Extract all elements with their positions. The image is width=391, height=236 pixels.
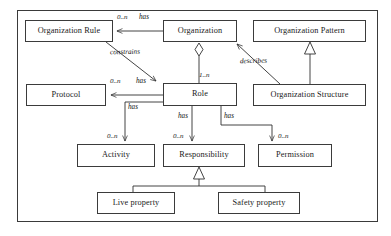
node-label: Activity xyxy=(102,151,130,159)
multiplicity-protocol: 0..n xyxy=(110,78,121,85)
edge-label-has-activity: has xyxy=(128,104,138,111)
node-permission[interactable]: Permission xyxy=(258,144,332,167)
edge-organization-structure-inherits-organization-pattern xyxy=(305,42,316,84)
node-label: Live property xyxy=(113,199,160,207)
multiplicity-organization-rule: 0..n xyxy=(117,14,128,21)
multiplicity-permission: 0..n xyxy=(278,133,289,140)
node-label: Organization xyxy=(178,27,222,35)
node-label: Responsibility xyxy=(179,151,228,159)
edge-label-has-protocol: has xyxy=(136,78,146,85)
node-live-property[interactable]: Live property xyxy=(97,192,175,214)
node-label: Organization Rule xyxy=(38,27,101,35)
generalization-triangle xyxy=(194,167,205,179)
edge-label-has-responsibility: has xyxy=(178,113,188,120)
aggregation-diamond xyxy=(195,43,203,56)
node-label: Permission xyxy=(276,151,314,159)
edge-properties-inherit-responsibility xyxy=(133,167,265,192)
node-label: Organization Pattern xyxy=(274,27,345,35)
generalization-triangle xyxy=(305,42,316,54)
node-safety-property[interactable]: Safety property xyxy=(218,192,300,214)
diagram-canvas: Organization Rule Organization Organizat… xyxy=(0,0,391,236)
node-organization-rule[interactable]: Organization Rule xyxy=(25,20,113,42)
node-role[interactable]: Role xyxy=(163,83,237,106)
multiplicity-responsibility: 0..n xyxy=(173,133,184,140)
multiplicity-activity: 0..n xyxy=(107,133,118,140)
edge-label-has-organization-rule: has xyxy=(139,14,149,21)
node-activity[interactable]: Activity xyxy=(77,144,155,167)
edge-label-constrains: constrains xyxy=(110,49,140,57)
node-organization[interactable]: Organization xyxy=(163,20,237,42)
edge-label-has-permission: has xyxy=(224,113,234,120)
multiplicity-role: 1..n xyxy=(199,72,210,79)
node-label: Safety property xyxy=(233,199,286,207)
node-responsibility[interactable]: Responsibility xyxy=(163,144,245,167)
node-protocol[interactable]: Protocol xyxy=(26,84,106,106)
node-organization-pattern[interactable]: Organization Pattern xyxy=(253,20,366,42)
node-organization-structure[interactable]: Organization Structure xyxy=(253,84,366,106)
node-label: Organization Structure xyxy=(271,91,349,99)
node-label: Protocol xyxy=(52,91,81,99)
node-label: Role xyxy=(192,90,208,98)
edge-label-describes: describes xyxy=(240,58,267,66)
